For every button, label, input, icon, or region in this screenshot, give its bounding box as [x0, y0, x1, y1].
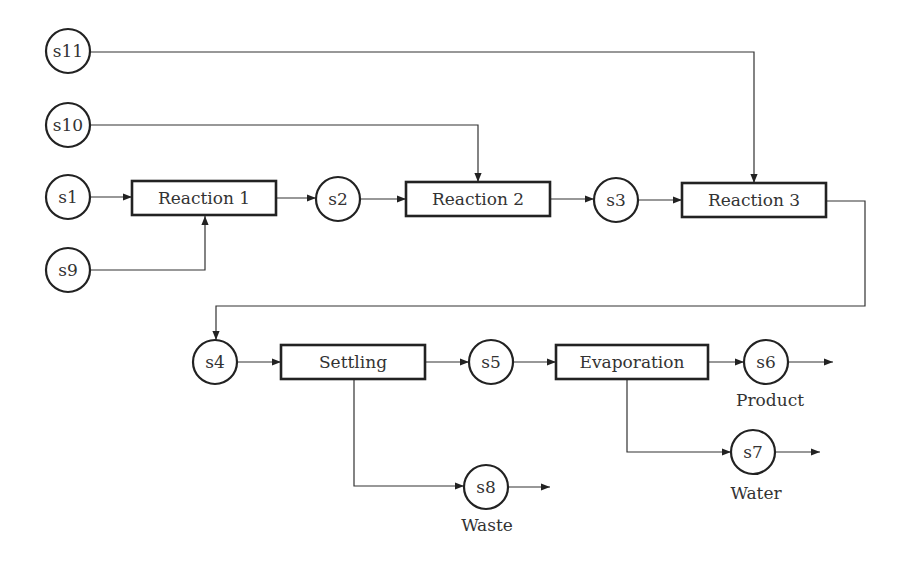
stream-label: s9	[58, 260, 78, 280]
stream-s7: s7	[731, 430, 775, 474]
process-flow-diagram: s11 s10 s1 s9 s2 s3 s4 s5 s6 s7 s8	[0, 0, 907, 561]
unit-label: Settling	[319, 352, 387, 372]
edge-s9-reaction1	[90, 216, 205, 270]
stream-s11: s11	[46, 29, 90, 73]
stream-s1: s1	[46, 175, 90, 219]
edge-evaporation-s7	[627, 380, 731, 452]
stream-s4: s4	[193, 340, 237, 384]
stream-label: s3	[606, 190, 626, 210]
edge-s11-reaction3	[90, 52, 754, 183]
caption-water: Water	[730, 483, 782, 503]
unit-label: Reaction 2	[432, 189, 524, 209]
stream-label: s11	[53, 41, 83, 61]
stream-s2: s2	[316, 177, 360, 221]
stream-label: s7	[743, 442, 763, 462]
edge-reaction3-s4	[216, 201, 865, 340]
stream-s5: s5	[469, 340, 513, 384]
unit-reaction-2: Reaction 2	[406, 182, 550, 216]
unit-label: Reaction 3	[708, 190, 800, 210]
unit-evaporation: Evaporation	[556, 345, 708, 379]
unit-label: Reaction 1	[158, 188, 250, 208]
unit-label: Evaporation	[580, 352, 685, 372]
stream-s8: s8	[464, 465, 508, 509]
stream-label: s1	[58, 187, 78, 207]
edges	[90, 52, 865, 487]
caption-waste: Waste	[461, 515, 513, 535]
stream-label: s6	[756, 352, 776, 372]
edge-settling-s8	[354, 379, 464, 486]
stream-s9: s9	[46, 248, 90, 292]
stream-label: s5	[481, 352, 501, 372]
stream-label: s4	[205, 352, 225, 372]
stream-s10: s10	[46, 103, 90, 147]
unit-reaction-1: Reaction 1	[132, 181, 276, 215]
caption-product: Product	[736, 390, 804, 410]
stream-label: s2	[328, 189, 348, 209]
edge-s10-reaction2	[90, 125, 478, 182]
stream-s6: s6	[744, 340, 788, 384]
unit-settling: Settling	[281, 345, 425, 379]
stream-label: s10	[53, 115, 83, 135]
stream-s3: s3	[594, 178, 638, 222]
unit-reaction-3: Reaction 3	[682, 183, 826, 217]
stream-label: s8	[476, 477, 496, 497]
